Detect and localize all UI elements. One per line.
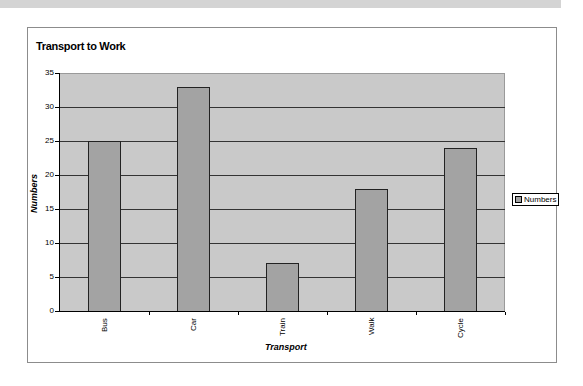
legend-swatch-icon xyxy=(515,196,522,203)
y-tick xyxy=(55,311,59,312)
y-tick-label: 5 xyxy=(34,272,54,281)
y-tick xyxy=(55,243,59,244)
gridline xyxy=(60,141,505,142)
x-tick xyxy=(416,312,417,315)
bar-cycle xyxy=(444,148,477,312)
gridline xyxy=(60,243,505,244)
y-tick xyxy=(55,209,59,210)
y-tick xyxy=(55,141,59,142)
x-category-label: Bus xyxy=(100,318,109,332)
x-axis xyxy=(59,311,505,312)
bar-bus xyxy=(88,141,121,312)
bar-train xyxy=(266,263,299,312)
y-axis xyxy=(59,73,60,312)
x-category-label: Cycle xyxy=(456,318,465,338)
legend-label: Numbers xyxy=(524,195,556,204)
gridline xyxy=(60,107,505,108)
x-tick xyxy=(505,312,506,315)
y-tick-label: 0 xyxy=(34,306,54,315)
x-tick xyxy=(238,312,239,315)
bar-walk xyxy=(355,189,388,312)
y-axis-title: Numbers xyxy=(29,174,39,213)
y-tick-label: 25 xyxy=(34,136,54,145)
y-tick-label: 30 xyxy=(34,102,54,111)
chart-title: Transport to Work xyxy=(36,40,125,52)
y-tick xyxy=(55,175,59,176)
legend: Numbers xyxy=(512,193,559,206)
x-category-label: Train xyxy=(278,318,287,336)
y-tick xyxy=(55,277,59,278)
y-tick-label: 10 xyxy=(34,238,54,247)
x-tick xyxy=(327,312,328,315)
top-bar xyxy=(0,0,561,8)
y-tick xyxy=(55,107,59,108)
x-tick xyxy=(149,312,150,315)
y-tick xyxy=(55,73,59,74)
gridline xyxy=(60,175,505,176)
gridline xyxy=(60,209,505,210)
x-category-label: Walk xyxy=(367,318,376,335)
bar-car xyxy=(177,87,210,312)
y-tick-label: 35 xyxy=(34,68,54,77)
x-category-label: Car xyxy=(189,318,198,331)
x-axis-title: Transport xyxy=(265,342,307,352)
